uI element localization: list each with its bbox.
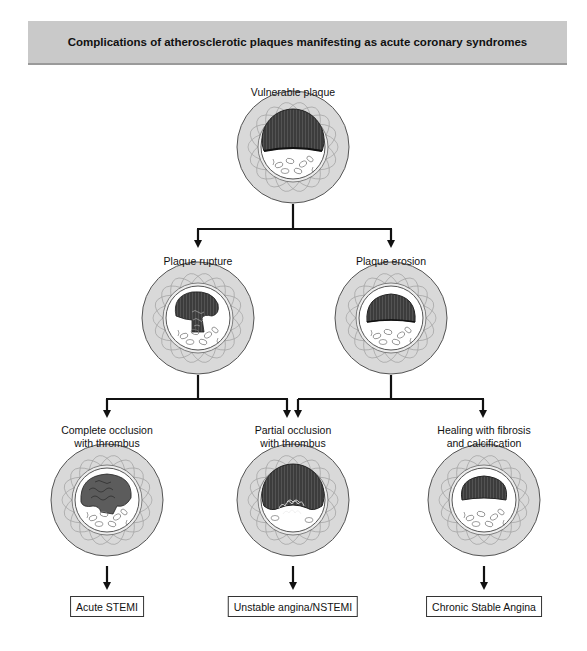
healing-line1: Healing with fibrosis [404,424,564,437]
vulnerable-plaque-label: Vulnerable plaque [213,86,373,99]
complete-occlusion-label: Complete occlusion with thrombus [27,424,187,450]
partial-occlusion-line1: Partial occlusion [213,424,373,437]
plaque-erosion-vessel [335,262,447,374]
partial-occlusion-line2: with thrombus [213,437,373,450]
outcome-unstable-angina-nstemi: Unstable angina/NSTEMI [228,596,358,617]
healing-vessel [428,444,540,556]
vulnerable-plaque-vessel [237,91,349,203]
complete-occlusion-line1: Complete occlusion [27,424,187,437]
outcome-acute-stemi: Acute STEMI [70,596,144,617]
complete-occlusion-vessel [51,444,163,556]
healing-line2: and calcification [404,437,564,450]
complete-occlusion-line2: with thrombus [27,437,187,450]
plaque-rupture-vessel [142,262,254,374]
plaque-rupture-label: Plaque rupture [118,255,278,268]
healing-label: Healing with fibrosis and calcification [404,424,564,450]
plaque-erosion-label: Plaque erosion [311,255,471,268]
outcome-chronic-stable-angina: Chronic Stable Angina [426,596,542,617]
partial-occlusion-label: Partial occlusion with thrombus [213,424,373,450]
partial-occlusion-vessel [237,444,349,556]
